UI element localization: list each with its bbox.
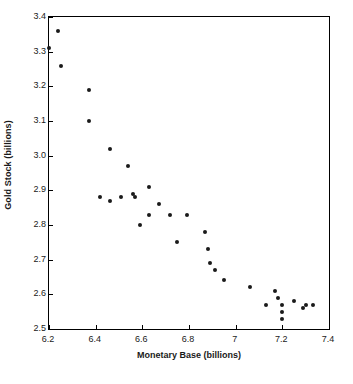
data-point — [138, 223, 142, 227]
data-point — [280, 303, 284, 307]
x-axis-tick-label: 6.8 — [182, 334, 195, 344]
y-axis-tick-mark — [49, 260, 53, 261]
x-axis-tick-label: 7 — [232, 334, 237, 344]
x-axis-tick-mark — [96, 325, 97, 329]
x-axis-tick-labels: 6.26.46.66.877.27.4 — [0, 334, 353, 348]
y-axis-tick-mark — [49, 52, 53, 53]
x-axis-title: Monetary Base (billions) — [48, 350, 330, 360]
data-point — [248, 285, 252, 289]
y-axis-tick-label: 3.0 — [33, 150, 46, 160]
data-point — [203, 230, 207, 234]
y-axis-tick-mark — [49, 294, 53, 295]
data-point — [280, 310, 284, 314]
data-point — [147, 185, 151, 189]
y-axis-tick-labels: 2.52.62.72.82.93.03.13.23.33.4 — [14, 0, 46, 384]
y-axis-tick-mark — [49, 156, 53, 157]
data-point — [304, 303, 308, 307]
y-axis-tick-label: 2.7 — [33, 254, 46, 264]
data-point — [133, 195, 137, 199]
data-point — [47, 46, 51, 50]
data-point — [119, 195, 123, 199]
plot-area — [48, 16, 330, 330]
data-point — [301, 306, 305, 310]
data-point — [311, 303, 315, 307]
x-axis-tick-mark — [329, 325, 330, 329]
data-point — [185, 213, 189, 217]
y-axis-tick-label: 3.1 — [33, 115, 46, 125]
y-axis-tick-label: 2.5 — [33, 323, 46, 333]
x-axis-tick-label: 6.4 — [88, 334, 101, 344]
y-axis-tick-mark — [49, 121, 53, 122]
x-axis-tick-mark — [236, 325, 237, 329]
data-point — [276, 296, 280, 300]
data-point — [206, 247, 210, 251]
data-point — [292, 299, 296, 303]
x-axis-tick-label: 7.2 — [275, 334, 288, 344]
x-axis-tick-label: 6.6 — [135, 334, 148, 344]
y-axis-tick-label: 2.9 — [33, 184, 46, 194]
y-axis-title-text: Gold Stock (billions) — [3, 120, 13, 210]
data-point — [280, 317, 284, 321]
data-point — [108, 147, 112, 151]
x-axis-tick-mark — [142, 325, 143, 329]
data-point — [108, 199, 112, 203]
data-point — [222, 278, 226, 282]
y-axis-tick-mark — [49, 17, 53, 18]
data-point — [87, 88, 91, 92]
data-point — [264, 303, 268, 307]
data-point — [59, 64, 63, 68]
y-axis-tick-mark — [49, 190, 53, 191]
y-axis-tick-mark — [49, 86, 53, 87]
data-point — [213, 268, 217, 272]
data-point — [98, 195, 102, 199]
y-axis-tick-label: 2.8 — [33, 219, 46, 229]
y-axis-tick-label: 2.6 — [33, 288, 46, 298]
y-axis-tick-label: 3.4 — [33, 11, 46, 21]
x-axis-tick-mark — [282, 325, 283, 329]
y-axis-tick-mark — [49, 329, 53, 330]
data-point — [175, 240, 179, 244]
data-point — [208, 261, 212, 265]
data-point — [147, 213, 151, 217]
scatter-chart-figure: Gold Stock (billions) 2.52.62.72.82.93.0… — [0, 0, 353, 384]
x-axis-tick-label: 7.4 — [322, 334, 335, 344]
x-axis-tick-label: 6.2 — [42, 334, 55, 344]
x-axis-tick-mark — [189, 325, 190, 329]
data-point — [168, 213, 172, 217]
y-axis-tick-label: 3.3 — [33, 46, 46, 56]
data-point — [56, 29, 60, 33]
x-axis-tick-mark — [49, 325, 50, 329]
data-point — [273, 289, 277, 293]
data-point — [157, 202, 161, 206]
data-point — [126, 164, 130, 168]
y-axis-tick-label: 3.2 — [33, 80, 46, 90]
data-point — [87, 119, 91, 123]
y-axis-tick-mark — [49, 225, 53, 226]
